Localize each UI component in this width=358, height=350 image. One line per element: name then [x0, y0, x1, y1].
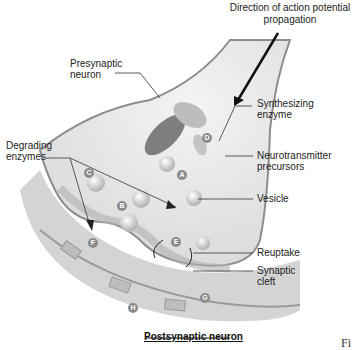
marker-f: F: [88, 238, 98, 248]
marker-h: H: [128, 303, 138, 313]
marker-g: G: [200, 293, 210, 303]
vesicle-label: Vesicle: [257, 193, 289, 204]
degrading-enzymes-label: Degrading enzymes: [6, 140, 52, 162]
marker-b: B: [117, 201, 127, 211]
marker-a: A: [177, 170, 187, 180]
postsynaptic-neuron-label: Postsynaptic neuron: [144, 331, 243, 342]
marker-e: E: [171, 237, 181, 247]
marker-c: C: [84, 168, 94, 178]
synaptic-cleft-label: Synaptic cleft: [257, 265, 295, 287]
synthesizing-enzyme-label: Synthesizing enzyme: [257, 98, 314, 120]
marker-d: D: [202, 133, 212, 143]
reuptake-label: Reuptake: [257, 247, 300, 258]
figure-caption-fragment: Fi: [341, 336, 351, 350]
presynaptic-neuron-label: Presynaptic neuron: [70, 58, 122, 80]
action-potential-direction-label: Direction of action potential propagatio…: [215, 2, 358, 26]
neurotransmitter-precursors-label: Neurotransmitter precursors: [257, 150, 331, 172]
